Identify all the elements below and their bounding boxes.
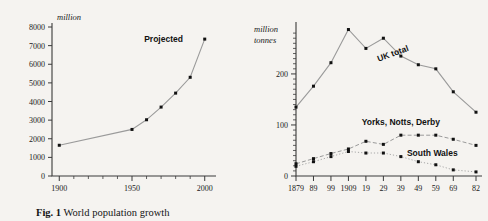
x-axis-tick-label: 59: [432, 184, 440, 193]
x-axis-tick-label: 1900: [51, 184, 67, 193]
data-point-marker: [347, 147, 350, 150]
data-point-marker: [347, 150, 350, 153]
x-axis-tick-label: 19: [362, 184, 370, 193]
data-point-marker: [329, 61, 332, 64]
data-point-marker: [452, 168, 455, 171]
data-point-marker: [475, 144, 478, 147]
y-axis-tick-label: 0: [41, 172, 45, 181]
y-axis-tick-label: 3000: [29, 116, 45, 125]
annotation-projected: Projected: [144, 34, 183, 44]
y-axis-tick-label: 7000: [29, 42, 45, 51]
data-point-marker: [434, 163, 437, 166]
x-axis-tick-label: 82: [472, 184, 480, 193]
data-point-marker: [434, 134, 437, 137]
figure-1-caption: Fig. 1 World population growth: [36, 207, 169, 218]
y-axis-tick-label: 8000: [29, 23, 45, 32]
x-axis-tick-label: 2000: [197, 184, 213, 193]
data-point-marker: [347, 28, 350, 31]
figure-1-caption-text: World population growth: [64, 207, 170, 218]
data-point-marker: [329, 152, 332, 155]
y-axis-unit-label: million: [57, 12, 81, 22]
x-axis-tick-label: 49: [414, 184, 422, 193]
data-point-marker: [399, 155, 402, 158]
figure-pair: million010002000300040005000600070008000…: [0, 0, 488, 221]
x-axis-tick-label: 29: [379, 184, 387, 193]
data-point-marker: [382, 152, 385, 155]
series-line-uk-total: [296, 30, 476, 113]
series-label-yorks-notts-derby: Yorks, Notts, Derby: [362, 117, 441, 127]
data-point-marker: [189, 76, 192, 79]
data-point-marker: [312, 160, 315, 163]
data-point-marker: [160, 106, 163, 109]
figure-1-world-population: million010002000300040005000600070008000…: [0, 0, 244, 221]
y-axis-tick-label: 200: [276, 70, 288, 79]
data-point-marker: [295, 106, 298, 109]
y-axis-tick-label: 0: [284, 172, 288, 181]
y-axis-tick-label: 6000: [29, 60, 45, 69]
data-point-marker: [295, 162, 298, 165]
y-axis-tick-label: 2000: [29, 135, 45, 144]
data-point-marker: [417, 134, 420, 137]
data-point-marker: [145, 118, 148, 121]
y-axis-tick-label: 1000: [29, 153, 45, 162]
data-point-marker: [364, 140, 367, 143]
data-point-marker: [399, 134, 402, 137]
data-point-marker: [295, 165, 298, 168]
y-axis-tick-label: 5000: [29, 79, 45, 88]
x-axis-tick-label: 69: [449, 184, 457, 193]
data-point-marker: [475, 170, 478, 173]
data-point-marker: [312, 85, 315, 88]
data-point-marker: [382, 37, 385, 40]
data-point-marker: [203, 38, 206, 41]
chart-uk-coal-production: milliontonnes010020018798999190919293949…: [244, 0, 488, 200]
series-label-uk-total: UK total: [376, 43, 410, 64]
x-axis-tick-label: 1909: [340, 184, 356, 193]
chart-axes: [52, 23, 216, 176]
data-point-marker: [452, 138, 455, 141]
data-point-marker: [382, 143, 385, 146]
y-axis-unit-label-line2: tonnes: [254, 35, 277, 45]
figure-2-uk-coal-production: milliontonnes010020018798999190919293949…: [244, 0, 488, 221]
data-point-marker: [174, 92, 177, 95]
x-axis-tick-label: 1950: [124, 184, 140, 193]
x-axis-tick-label: 1879: [288, 184, 304, 193]
data-point-marker: [131, 128, 134, 131]
data-point-marker: [434, 67, 437, 70]
series-label-south-wales: South Wales: [407, 148, 458, 158]
x-axis-tick-label: 99: [327, 184, 335, 193]
y-axis-unit-label-line1: million: [254, 24, 278, 34]
data-point-marker: [364, 152, 367, 155]
data-point-marker: [475, 111, 478, 114]
chart-world-population-growth: million010002000300040005000600070008000…: [0, 0, 244, 200]
x-axis-tick-label: 39: [397, 184, 405, 193]
y-axis-tick-label: 100: [276, 121, 288, 130]
data-point-marker: [417, 160, 420, 163]
figure-1-number: Fig. 1: [36, 207, 61, 218]
data-point-marker: [417, 63, 420, 66]
data-point-marker: [364, 47, 367, 50]
x-axis-tick-label: 89: [309, 184, 317, 193]
data-point-marker: [329, 155, 332, 158]
data-point-marker: [452, 90, 455, 93]
data-point-marker: [58, 144, 61, 147]
y-axis-tick-label: 4000: [29, 98, 45, 107]
data-point-marker: [312, 157, 315, 160]
